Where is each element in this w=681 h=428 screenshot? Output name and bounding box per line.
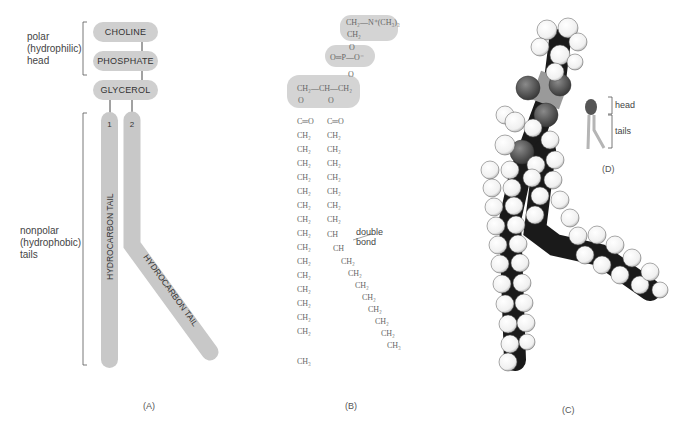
d-tails-label: tails <box>615 125 631 137</box>
lipid-icon <box>0 0 681 428</box>
head-icon <box>585 99 597 115</box>
tail-icon <box>588 115 589 149</box>
panel-d-letter: (D) <box>602 164 615 174</box>
tail-icon <box>594 115 604 148</box>
d-head-label: head <box>615 99 635 111</box>
